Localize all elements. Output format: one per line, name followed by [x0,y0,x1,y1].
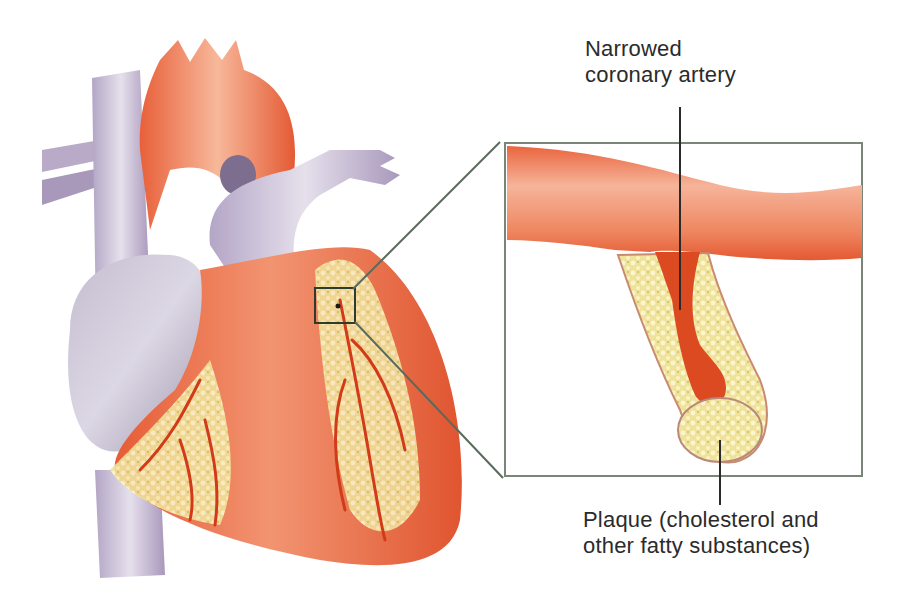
label-plaque-line1: Plaque (cholesterol and [583,507,819,533]
label-narrowed-line1: Narrowed [585,36,736,62]
label-narrowed-line2: coronary artery [585,62,736,88]
label-plaque-line2: other fatty substances) [583,533,819,559]
label-narrowed-coronary-artery: Narrowed coronary artery [585,36,736,88]
diagram-canvas: Narrowed coronary artery Plaque (cholest… [0,0,905,612]
label-plaque: Plaque (cholesterol and other fatty subs… [583,507,819,559]
